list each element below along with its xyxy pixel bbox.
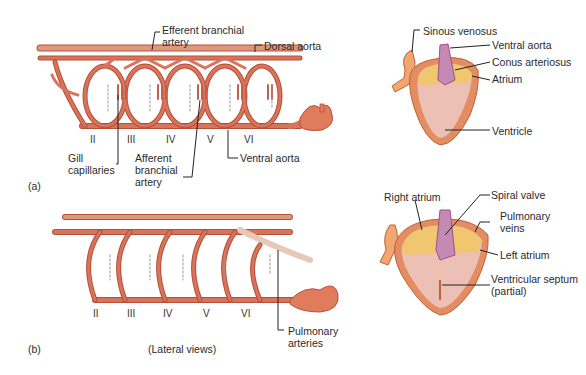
label-spiral-valve: Spiral valve: [491, 189, 545, 201]
arch-numeral-a-6: VI: [244, 134, 253, 145]
arch-numeral-b-3: III: [127, 308, 135, 319]
panel-a-heart-small: [300, 104, 333, 131]
label-sinous-venosus: Sinous venosus: [423, 25, 497, 37]
panel-tag-b: (b): [28, 343, 41, 355]
panel-tag-a: (a): [28, 180, 41, 192]
arch-numeral-a-3: III: [127, 134, 135, 145]
panel-b-leaders: [278, 250, 284, 330]
label-afferent-branchial-artery: Afferent branchial artery: [135, 152, 185, 188]
panel-b-arches: [55, 217, 310, 300]
label-right-atrium: Right atrium: [384, 191, 441, 203]
arch-numeral-b-4: IV: [163, 308, 172, 319]
arch-numeral-a-5: V: [207, 134, 214, 145]
label-efferent-branchial-artery: Efferent branchial artery: [162, 24, 267, 48]
arch-numeral-b-2: II: [93, 308, 99, 319]
arch-numeral-a-4: IV: [166, 134, 175, 145]
panel-a-arches: [40, 48, 305, 126]
arch-numeral-a-2: II: [90, 134, 96, 145]
panel-b-heart-small: [290, 286, 338, 312]
panel-b-heart: [380, 210, 488, 315]
label-gill-capillaries: Gill capillaries: [68, 152, 118, 176]
label-ventricular-septum: Ventricular septum (partial): [491, 273, 581, 297]
arch-numeral-b-5: V: [203, 308, 210, 319]
label-dorsal-aorta: Dorsal aorta: [264, 40, 321, 52]
caption-lateral-views: (Lateral views): [148, 343, 216, 355]
label-ventral-aorta-a: Ventral aorta: [240, 152, 300, 164]
label-pulmonary-arteries: Pulmonary arteries: [288, 325, 358, 349]
label-atrium: Atrium: [492, 73, 522, 85]
label-left-atrium: Left atrium: [500, 249, 550, 261]
label-heart-ventral-aorta: Ventral aorta: [492, 39, 552, 51]
label-pulmonary-veins: Pulmonary veins: [500, 210, 560, 234]
arch-numeral-b-6: VI: [241, 308, 250, 319]
label-ventricle: Ventricle: [492, 125, 532, 137]
label-conus-arteriosus: Conus arteriosus: [492, 56, 571, 68]
